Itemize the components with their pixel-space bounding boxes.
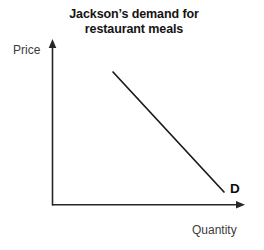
y-axis-label: Price bbox=[13, 43, 40, 57]
x-axis-arrowhead bbox=[236, 201, 245, 209]
plot-area bbox=[0, 0, 264, 250]
demand-curve-line bbox=[113, 72, 224, 192]
y-axis-arrowhead bbox=[49, 39, 57, 48]
demand-curve-label: D bbox=[230, 181, 240, 196]
x-axis-label: Quantity bbox=[192, 223, 237, 237]
demand-curve-figure: Jackson’s demand for restaurant meals Pr… bbox=[0, 0, 264, 250]
